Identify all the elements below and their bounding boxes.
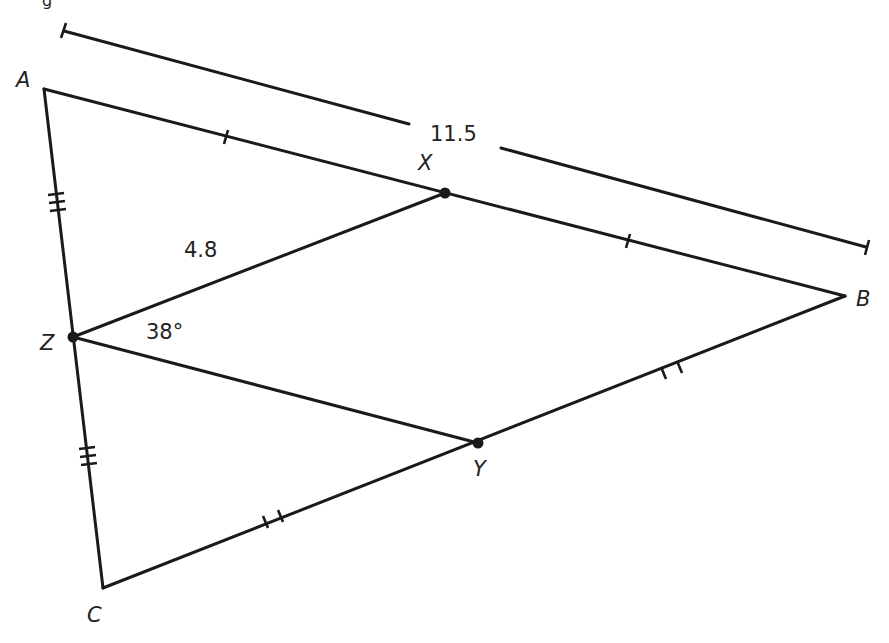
vertex-label-c: C (87, 603, 102, 627)
length-label-zx: 4.8 (184, 238, 217, 262)
length-label-ab: 11.5 (430, 122, 477, 146)
dimension-line-left (64, 31, 409, 124)
segment-zy (73, 337, 478, 443)
segment-zx (73, 193, 445, 337)
point-z (68, 332, 79, 343)
point-x (440, 188, 451, 199)
header-fragment: g (42, 0, 52, 10)
vertex-label-y: Y (473, 457, 488, 481)
dimension-line-right (501, 148, 866, 247)
point-y (473, 438, 484, 449)
angle-label-xzy: 38° (146, 320, 183, 344)
vertex-label-z: Z (39, 331, 55, 355)
vertex-label-x: X (417, 151, 433, 175)
triangle-diagram: g 11.5 A B C X Y Z (0, 0, 889, 643)
vertex-label-b: B (856, 287, 870, 311)
vertex-label-a: A (14, 68, 30, 92)
